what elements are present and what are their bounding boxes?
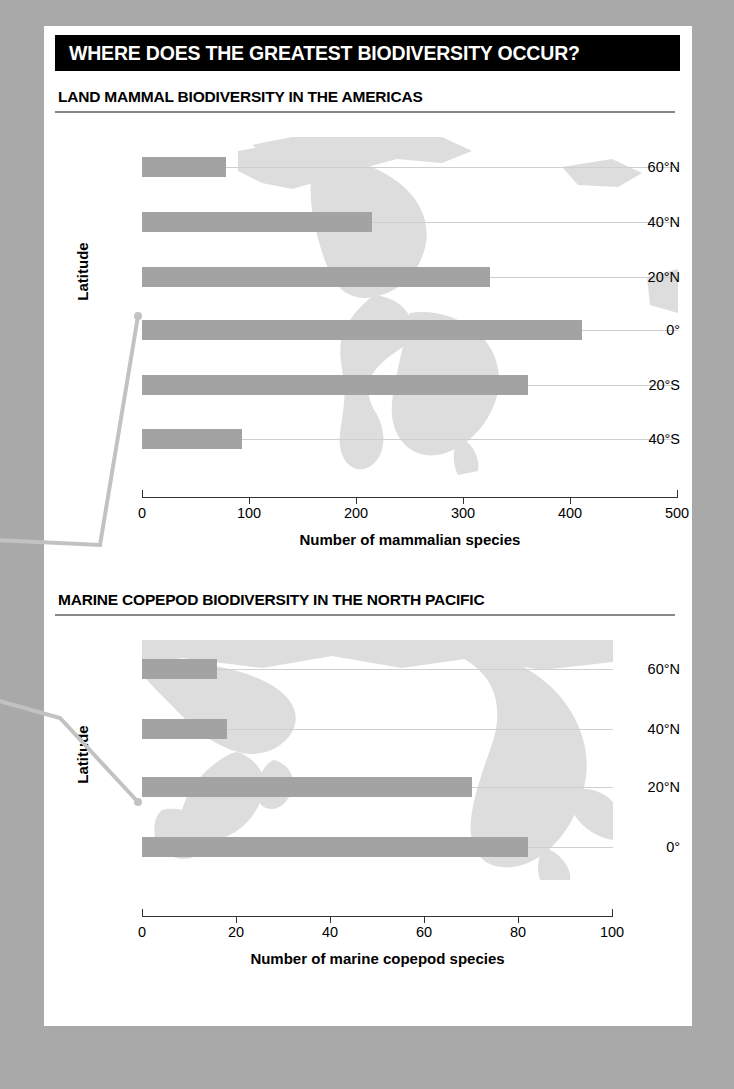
chart-2-ytick-20N: 20°N [598, 779, 680, 795]
bar-20S [142, 375, 528, 395]
chart-1-canvas [142, 137, 678, 477]
chart-1-x-axis-title: Number of mammalian species [142, 531, 678, 548]
chart-2-xtick-0: 0 [138, 924, 146, 940]
chart-1-xtick-500: 500 [665, 505, 689, 521]
bar-0 [142, 837, 528, 857]
chart-1-title: LAND MAMMAL BIODIVERSITY IN THE AMERICAS [55, 88, 680, 106]
bar-40S [142, 429, 242, 449]
page-title: WHERE DOES THE GREATEST BIODIVERSITY OCC… [69, 42, 580, 65]
chart-2-ytick-60N: 60°N [598, 661, 680, 677]
chart-2-xtick-40: 40 [322, 924, 338, 940]
chart-1-xtick-200: 200 [344, 505, 368, 521]
chart-1-ytick-0: 0° [598, 322, 680, 338]
chart-panel-land-mammals: LAND MAMMAL BIODIVERSITY IN THE AMERICAS… [55, 88, 680, 533]
bar-40N [142, 719, 227, 739]
header-title-bar: WHERE DOES THE GREATEST BIODIVERSITY OCC… [55, 35, 680, 71]
chart-1-ytick-60N: 60°N [598, 159, 680, 175]
chart-1-xtick-300: 300 [451, 505, 475, 521]
chart-2-y-axis-title: Latitude [74, 710, 91, 800]
chart-1-ytick-20S: 20°S [598, 377, 680, 393]
bar-40N [142, 212, 372, 232]
chart-1-xtick-100: 100 [237, 505, 261, 521]
chart-2-title: MARINE COPEPOD BIODIVERSITY IN THE NORTH… [55, 591, 680, 609]
chart-1-ytick-40S: 40°S [598, 431, 680, 447]
bar-60N [142, 659, 217, 679]
chart-2-ytick-0: 0° [598, 839, 680, 855]
chart-1-x-axis [142, 497, 678, 498]
chart-2-xtick-80: 80 [510, 924, 526, 940]
chart-2-ytick-40N: 40°N [598, 721, 680, 737]
bar-20N [142, 267, 490, 287]
chart-2-canvas [142, 640, 613, 880]
chart-2-x-axis [142, 916, 613, 917]
chart-1-ytick-20N: 20°N [598, 269, 680, 285]
chart-1-xtick-400: 400 [558, 505, 582, 521]
chart-1-plot-area: Latitude [55, 113, 680, 533]
bar-20N [142, 777, 472, 797]
chart-2-x-axis-title: Number of marine copepod species [142, 950, 613, 967]
chart-panel-marine-copepods: MARINE COPEPOD BIODIVERSITY IN THE NORTH… [55, 591, 680, 986]
chart-1-xtick-0: 0 [138, 505, 146, 521]
chart-2-plot-area: Latitude [55, 616, 680, 986]
chart-2-xtick-20: 20 [228, 924, 244, 940]
chart-2-xtick-100: 100 [600, 924, 624, 940]
chart-2-xtick-60: 60 [416, 924, 432, 940]
chart-1-y-axis-title: Latitude [74, 227, 91, 317]
bar-60N [142, 157, 226, 177]
chart-1-ytick-40N: 40°N [598, 214, 680, 230]
infographic-card: WHERE DOES THE GREATEST BIODIVERSITY OCC… [44, 26, 692, 1026]
americas-map-background [142, 137, 678, 477]
bar-0 [142, 320, 582, 340]
